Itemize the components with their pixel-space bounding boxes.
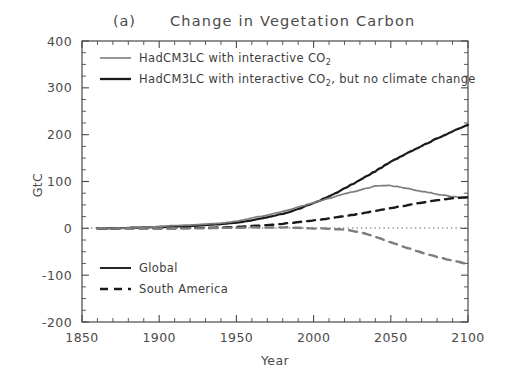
chart-title: Change in Vegetation Carbon [170, 13, 415, 29]
legend-label-interactive-co2: HadCM3LC with interactive CO2 [139, 51, 331, 67]
legend-label-no-climate-change: HadCM3LC with interactive CO2, but no cl… [139, 72, 476, 88]
x-tick-label: 2050 [374, 330, 407, 345]
y-tick-label: 100 [47, 174, 72, 189]
y-tick-label: -200 [42, 315, 72, 330]
vegetation-carbon-line-chart: (a) Change in Vegetation Carbon 40030020… [0, 0, 505, 383]
legend-label-south-america: South America [139, 282, 228, 296]
figure-container: (a) Change in Vegetation Carbon 40030020… [0, 0, 505, 383]
x-tick-label: 2100 [451, 330, 484, 345]
x-tick-label: 1850 [65, 330, 98, 345]
y-tick-label: 200 [47, 127, 72, 142]
y-axis-label: GtC [30, 173, 45, 198]
x-tick-label: 1900 [142, 330, 175, 345]
legend-label-global: Global [139, 261, 178, 275]
y-tick-label: 300 [47, 80, 72, 95]
y-tick-label: 400 [47, 34, 72, 49]
x-tick-label: 2000 [297, 330, 330, 345]
y-tick-label: -100 [42, 268, 72, 283]
panel-tag: (a) [113, 13, 136, 29]
y-tick-label: 0 [64, 221, 72, 236]
x-axis-label: Year [260, 353, 290, 368]
x-tick-label: 1950 [220, 330, 253, 345]
